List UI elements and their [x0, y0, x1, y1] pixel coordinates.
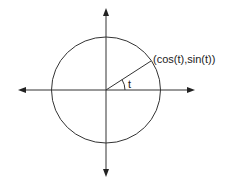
x-axis-right-arrow-icon: [187, 87, 195, 93]
angle-label: t: [128, 78, 131, 90]
x-axis-left-arrow-icon: [18, 87, 26, 93]
angle-arc: [122, 80, 125, 90]
y-axis-top-arrow-icon: [103, 8, 109, 16]
y-axis-bottom-arrow-icon: [103, 169, 109, 177]
unit-circle-diagram: t (cos(t),sin(t)): [0, 0, 234, 184]
point-label: (cos(t),sin(t)): [153, 53, 215, 65]
y-axis: [103, 8, 109, 177]
